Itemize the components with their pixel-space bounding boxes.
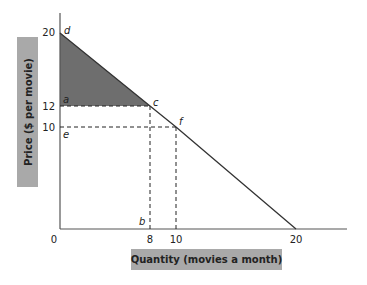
point-label-f: f: [179, 116, 184, 127]
y-axis-label: Price ($ per movie): [22, 58, 33, 166]
point-label-c: c: [153, 97, 159, 108]
x-axis-label: Quantity (movies a month): [131, 254, 283, 265]
chart-canvas: 20 12 10 0 8 10 20 d a c e f b: [0, 0, 367, 285]
y-tick-12: 12: [42, 101, 55, 112]
x-tick-20: 20: [290, 234, 303, 245]
y-tick-10: 10: [42, 122, 55, 133]
point-label-b: b: [139, 216, 145, 227]
y-tick-20: 20: [42, 27, 55, 38]
point-label-d: d: [64, 25, 71, 36]
x-tick-8: 8: [147, 234, 153, 245]
y-axis-label-box: Price ($ per movie): [17, 37, 38, 187]
x-axis-label-box: Quantity (movies a month): [131, 249, 282, 270]
point-label-e: e: [63, 129, 69, 140]
x-tick-0: 0: [51, 234, 57, 245]
point-label-a: a: [63, 94, 69, 105]
x-tick-10: 10: [170, 234, 183, 245]
demand-curve: [60, 33, 296, 229]
